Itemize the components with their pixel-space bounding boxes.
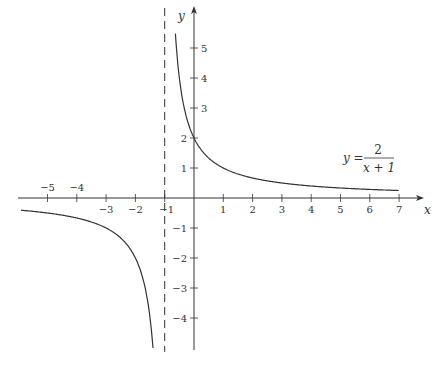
y-tick-label: 1 [181, 163, 187, 174]
axes [18, 6, 424, 350]
y-tick-label: 2 [181, 133, 187, 144]
y-tick-label: −2 [172, 253, 187, 264]
svg-text:x + 1: x + 1 [363, 161, 395, 175]
svg-text:2: 2 [374, 143, 382, 157]
equation-annotation: y = 2 x + 1 [342, 143, 395, 175]
curve-left-branch [21, 210, 153, 348]
x-tick-label: −5 [40, 182, 55, 193]
y-tick-label: 4 [201, 73, 207, 84]
y-tick-label: 3 [201, 103, 207, 114]
x-axis-label: x [424, 203, 431, 217]
x-tick-label: 6 [367, 204, 373, 215]
x-tick-label: 1 [220, 204, 226, 215]
x-tick-label: 5 [337, 204, 343, 215]
y-tick-label: −3 [172, 283, 187, 294]
x-tick-label: 7 [396, 204, 402, 215]
svg-text:y =: y = [342, 151, 364, 165]
y-tick-label: −4 [172, 313, 187, 324]
x-tick-label: 3 [279, 204, 285, 215]
function-plot: −5−4−3−2−11234567−4−3−2−112345 x y y = 2… [0, 0, 446, 367]
y-tick-label: 5 [201, 43, 207, 54]
ticks: −5−4−3−2−11234567−4−3−2−112345 [40, 43, 402, 324]
x-tick-label: −2 [128, 204, 143, 215]
y-tick-label: −1 [172, 223, 187, 234]
y-axis-label: y [177, 9, 185, 23]
x-tick-label: 4 [308, 204, 314, 215]
x-tick-label: −1 [159, 204, 174, 215]
x-tick-label: −3 [99, 204, 114, 215]
x-tick-label: −4 [69, 182, 84, 193]
x-tick-label: 2 [249, 204, 255, 215]
